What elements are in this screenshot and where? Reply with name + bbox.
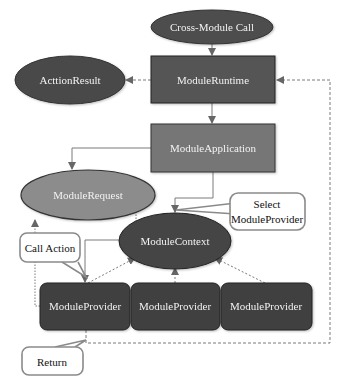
module-provider-1-label: ModuleProvider	[49, 300, 121, 312]
node-module-provider-3[interactable]: ModuleProvider	[221, 283, 312, 330]
edge-provider1-to-context	[88, 258, 135, 283]
node-module-runtime[interactable]: ModuleRuntime	[151, 56, 275, 103]
action-result-label: ActtionResult	[39, 74, 100, 86]
callout-select-provider: Select ModuleProvider	[230, 193, 305, 230]
node-module-provider-2[interactable]: ModuleProvider	[131, 283, 220, 330]
module-runtime-label: ModuleRuntime	[177, 74, 249, 86]
call-action-callout-text: Call Action	[25, 242, 76, 254]
callout-return: Return	[22, 347, 83, 375]
callout-call-action: Call Action	[20, 233, 80, 262]
diagram-canvas: Cross-Module Call ModuleRuntime ActtionR…	[0, 0, 344, 391]
node-cross-module-call[interactable]: Cross-Module Call	[151, 10, 273, 44]
select-callout-line2: ModuleProvider	[231, 213, 303, 225]
module-provider-3-label: ModuleProvider	[230, 300, 302, 312]
edge-application-to-request	[72, 148, 151, 169]
node-module-provider-1[interactable]: ModuleProvider	[40, 283, 130, 330]
node-module-application[interactable]: ModuleApplication	[151, 124, 275, 172]
module-context-label: ModuleContext	[140, 235, 209, 247]
module-provider-2-label: ModuleProvider	[139, 300, 211, 312]
select-callout-pointer	[176, 203, 236, 214]
call-action-callout-pointer	[62, 262, 86, 277]
cross-module-call-label: Cross-Module Call	[170, 21, 254, 33]
module-request-label: ModuleRequest	[53, 189, 123, 201]
edge-provider3-to-context	[215, 258, 265, 283]
module-application-label: ModuleApplication	[170, 142, 257, 154]
node-module-request[interactable]: ModuleRequest	[21, 170, 155, 220]
node-module-context[interactable]: ModuleContext	[119, 213, 231, 269]
select-callout-line1: Select	[254, 198, 281, 210]
node-action-result[interactable]: ActtionResult	[15, 56, 125, 104]
return-callout-text: Return	[37, 356, 67, 368]
return-callout-pointer	[55, 340, 86, 347]
